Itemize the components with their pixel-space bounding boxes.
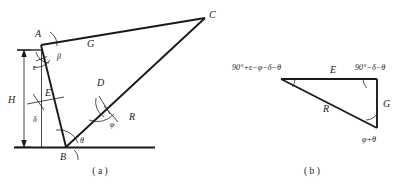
vertex-label-A: A [34, 28, 42, 39]
panel-a-group: H A B C D G E R ε β [7, 9, 216, 177]
side-label-G: G [383, 98, 390, 109]
angle-label-delta: δ [33, 115, 37, 124]
angle-label-beta: β [56, 52, 61, 61]
arc-apex-bottom [366, 114, 377, 120]
caption-a: ( a ) [92, 166, 107, 177]
segment-label-G: G [87, 38, 94, 49]
angle-label-apex-right: 90°−δ−θ [355, 63, 385, 72]
angle-label-apex-left: 90°+ε−φ−δ−θ [232, 63, 281, 72]
figure-svg: H A B C D G E R ε β [0, 0, 409, 188]
vertex-label-C: C [209, 9, 216, 20]
side-label-E: E [329, 64, 336, 75]
arc-theta [56, 130, 78, 143]
arc-apex-right [363, 79, 367, 88]
delta-hatch-tick [33, 94, 44, 110]
segment-label-R: R [128, 111, 135, 122]
label-H: H [7, 94, 16, 105]
vertex-label-B: B [60, 151, 66, 162]
caption-b: ( b ) [304, 166, 320, 177]
side-label-R: R [322, 103, 329, 114]
segment-label-E: E [44, 87, 51, 98]
vertex-label-D: D [96, 77, 105, 88]
angle-label-apex-bottom: φ+θ [362, 135, 376, 144]
panel-b-group: E G R 90°+ε−φ−δ−θ 90°−δ−θ φ+θ ( b ) [232, 63, 390, 177]
angle-label-phi: φ [110, 120, 115, 129]
figure-container: H A B C D G E R ε β [0, 0, 409, 188]
angle-label-theta: θ [80, 136, 84, 145]
arc-B-lower [74, 150, 78, 160]
height-dimension: H [7, 49, 31, 148]
delta-hatch-line [27, 97, 64, 104]
